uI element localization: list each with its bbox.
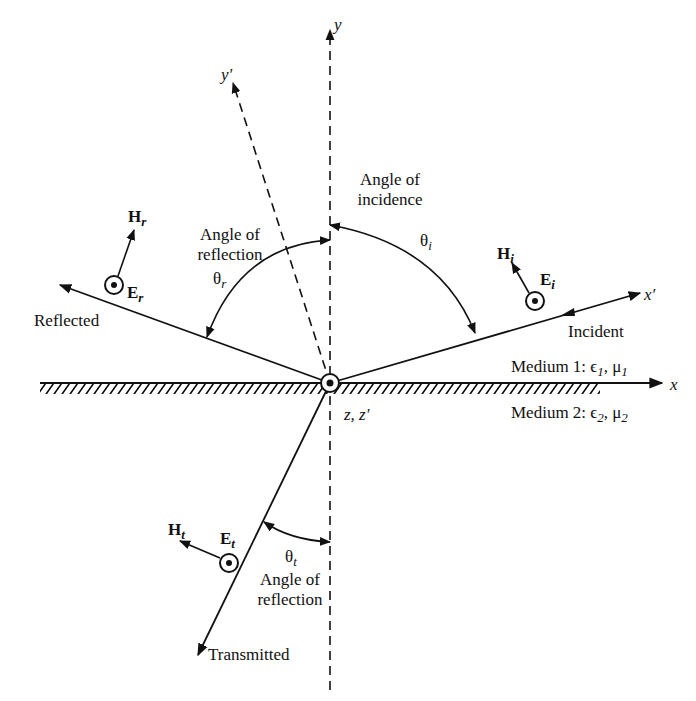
x-prime-axis-label: x′ <box>643 285 656 304</box>
reflection-label-line2: reflection <box>197 245 263 264</box>
hr-label: Hr <box>128 207 147 229</box>
reflection-label-line1: Angle of <box>200 225 260 244</box>
incidence-angle-arc <box>330 225 475 333</box>
transmitted-label: Transmitted <box>208 645 290 664</box>
reflected-ray <box>60 285 330 383</box>
er-label: Er <box>127 283 144 305</box>
transmission-angle-arc <box>264 522 330 542</box>
incident-label: Incident <box>568 322 624 341</box>
medium-1-label: Medium 1: ϵ1, μ1 <box>511 357 628 379</box>
z-axis-label: z, z′ <box>343 405 370 424</box>
medium-2-label: Medium 2: ϵ2, μ2 <box>511 403 628 425</box>
e-field-incident-icon <box>526 292 544 310</box>
incidence-label-line2: incidence <box>357 190 422 209</box>
theta-i-label: θi <box>420 231 432 253</box>
reflected-label: Reflected <box>34 311 100 330</box>
theta-t-label: θt <box>285 547 297 569</box>
incident-direction-arrow <box>560 308 575 316</box>
y-prime-axis-label: y′ <box>219 65 233 84</box>
h-field-reflected-arrow <box>118 230 134 276</box>
interface-boundary <box>40 383 662 394</box>
transmission-label-line1: Angle of <box>260 570 320 589</box>
h-field-incident-arrow <box>512 263 529 293</box>
x-axis-label: x <box>669 375 678 394</box>
hi-label: Hi <box>497 244 514 266</box>
e-field-transmitted-icon <box>220 554 238 572</box>
incidence-label-line1: Angle of <box>360 170 420 189</box>
oblique-incidence-diagram: y y′ x′ x z, z′ Incident Reflected Trans… <box>0 0 696 701</box>
et-label: Et <box>220 529 235 551</box>
ei-label: Ei <box>540 270 555 292</box>
transmitted-ray <box>198 383 330 655</box>
transmission-label-line2: reflection <box>257 590 323 609</box>
h-field-transmitted-arrow <box>180 541 220 558</box>
y-axis-label: y <box>332 15 342 34</box>
theta-r-label: θr <box>213 269 227 291</box>
e-field-reflected-icon <box>105 276 123 294</box>
origin-z-out-of-page-icon <box>321 374 339 392</box>
ht-label: Ht <box>168 520 185 542</box>
